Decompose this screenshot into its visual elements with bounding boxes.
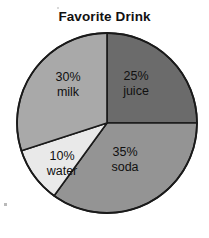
pie-slice-name-soda: soda <box>100 160 150 175</box>
pie-chart-figure: Favorite Drink 25% juice 30% milk 35% so… <box>0 0 209 238</box>
pie-slice-label-juice: 25% juice <box>112 69 160 99</box>
pie-slice-label-milk: 30% milk <box>43 70 93 100</box>
pie-slice-group <box>17 33 197 213</box>
pie-slice-name-juice: juice <box>112 84 160 99</box>
scan-artifact-speck-left <box>4 203 7 206</box>
pie-slice-name-milk: milk <box>43 85 93 100</box>
pie-slice-label-water: 10% water <box>34 149 90 179</box>
pie-slice-percent-water: 10% <box>34 149 90 164</box>
pie-slice-percent-juice: 25% <box>112 69 160 84</box>
scan-artifact-speck-top <box>57 7 59 9</box>
pie-slice-percent-milk: 30% <box>43 70 93 85</box>
pie-chart-graphic <box>0 0 209 238</box>
pie-slice-percent-soda: 35% <box>100 145 150 160</box>
pie-slice-name-water: water <box>34 164 90 179</box>
pie-slice-label-soda: 35% soda <box>100 145 150 175</box>
